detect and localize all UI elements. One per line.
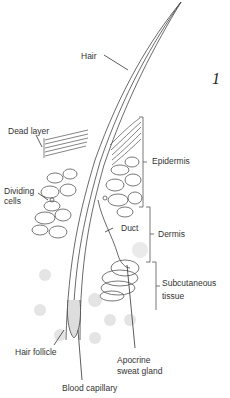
- dead-layer-left: [44, 130, 88, 158]
- label-blood-capillary: Blood capillary: [62, 383, 117, 393]
- label-duct: Duct: [121, 223, 138, 233]
- sweat-duct: [98, 200, 130, 268]
- label-hair: Hair: [81, 51, 97, 61]
- label-apocrine-2: sweat gland: [117, 366, 162, 376]
- label-apocrine-1: Apocrine: [117, 355, 151, 365]
- skin-cross-section-diagram: [0, 0, 230, 398]
- label-dividing-cells-1: Dividing: [4, 186, 34, 196]
- label-epidermis: Epidermis: [152, 156, 190, 166]
- label-hair-follicle: Hair follicle: [15, 347, 57, 357]
- layer-brackets: [139, 117, 160, 310]
- figure-number: 1: [212, 70, 220, 88]
- label-subcutaneous-1: Subcutaneous: [162, 278, 216, 288]
- label-dermis: Dermis: [158, 229, 185, 239]
- label-dividing-cells-2: cells: [4, 196, 21, 206]
- apocrine-sweat-gland: [100, 260, 139, 301]
- label-dead-layer: Dead layer: [8, 126, 49, 136]
- label-subcutaneous-2: tissue: [162, 291, 184, 301]
